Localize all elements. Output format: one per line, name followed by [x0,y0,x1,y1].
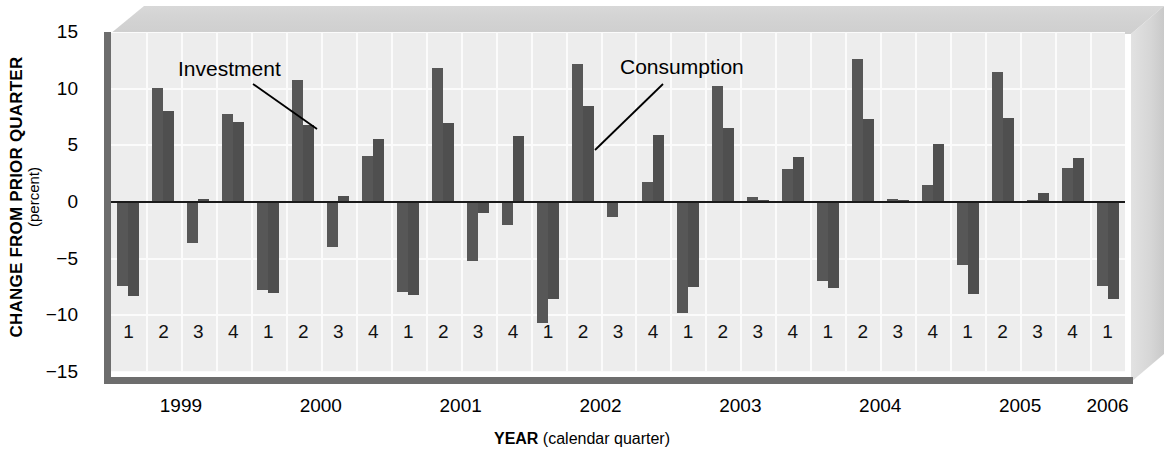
quarter-label-2004-Q3: 3 [880,322,915,341]
bar-investment-2006-Q1 [1097,202,1108,286]
bar-consumption-2000-Q4 [373,139,384,202]
y-tick-10: 10 [32,79,78,98]
bar-consumption-2003-Q4 [793,157,804,202]
x-axis-title-rest: (calendar quarter) [538,430,670,447]
quarter-label-1999-Q4: 4 [216,322,251,341]
bar-investment-2005-Q2 [992,72,1003,202]
quarter-label-2004-Q4: 4 [915,322,950,341]
bar-investment-2002-Q2 [572,64,583,202]
bar-investment-2004-Q2 [852,59,863,202]
year-label-2006: 2006 [1068,396,1148,415]
bar-consumption-2001-Q1 [408,202,419,295]
gridline-horizontal [111,371,1125,372]
quarter-label-2003-Q2: 2 [705,322,740,341]
year-label-2001: 2001 [421,396,501,415]
quarter-label-2002-Q4: 4 [635,322,670,341]
quarter-label-2005-Q4: 4 [1055,322,1090,341]
bar-investment-2000-Q3 [327,202,338,247]
bar-investment-2002-Q3 [607,202,618,217]
quarter-label-2003-Q1: 1 [670,322,705,341]
bar-consumption-2004-Q1 [828,202,839,288]
bar-investment-1999-Q3 [187,202,198,243]
bar-investment-2001-Q4 [502,202,513,225]
bar-investment-2000-Q1 [257,202,268,290]
quarter-label-1999-Q1: 1 [111,322,146,341]
bar-investment-2003-Q1 [677,202,688,313]
quarter-label-2005-Q3: 3 [1020,322,1055,341]
bar-consumption-1999-Q2 [163,111,174,202]
quarter-label-2001-Q3: 3 [461,322,496,341]
bar-consumption-2001-Q4 [513,136,524,202]
bar-investment-1999-Q4 [222,114,233,202]
bar-consumption-2004-Q2 [863,119,874,202]
quarter-label-2004-Q1: 1 [810,322,845,341]
bar-investment-2005-Q1 [957,202,968,265]
quarter-label-2003-Q3: 3 [740,322,775,341]
x-axis-title: YEAR (calendar quarter) [0,430,1164,448]
y-axis-title-main: CHANGE FROM PRIOR QUARTER [8,57,26,338]
bar-consumption-2003-Q2 [723,128,734,202]
zero-axis-line [111,201,1125,203]
y-tick-neg15: −15 [32,362,78,381]
bar-consumption-2000-Q1 [268,202,279,293]
bar-consumption-2005-Q4 [1073,158,1084,202]
bar-investment-2004-Q1 [817,202,828,281]
bar-investment-2003-Q2 [712,86,723,202]
bar-consumption-2002-Q2 [583,106,594,202]
quarter-label-2002-Q1: 1 [531,322,566,341]
quarter-label-1999-Q2: 2 [146,322,181,341]
y-tick-5: 5 [32,135,78,154]
bar-consumption-2002-Q4 [653,135,664,202]
year-label-2004: 2004 [840,396,920,415]
bar-consumption-2002-Q1 [548,202,559,299]
bar-investment-2002-Q1 [537,202,548,323]
x-axis-title-bold: YEAR [494,430,538,447]
quarter-label-2001-Q1: 1 [391,322,426,341]
quarter-label-2000-Q3: 3 [321,322,356,341]
quarter-label-2001-Q4: 4 [496,322,531,341]
bar-investment-1999-Q2 [152,88,163,202]
gridline-horizontal [111,314,1125,316]
year-label-1999: 1999 [141,396,221,415]
bar-consumption-2006-Q1 [1108,202,1119,299]
bar-consumption-2001-Q2 [443,123,454,202]
quarter-label-2000-Q1: 1 [251,322,286,341]
bar-investment-2000-Q2 [292,80,303,202]
bar-investment-2005-Q4 [1062,168,1073,202]
quarter-label-2002-Q3: 3 [601,322,636,341]
bar-investment-2004-Q4 [922,185,933,202]
quarter-label-2004-Q2: 2 [845,322,880,341]
bar-investment-2002-Q4 [642,182,653,202]
bar-investment-2003-Q4 [782,169,793,202]
bar-investment-2000-Q4 [362,156,373,202]
bar-consumption-2005-Q1 [968,202,979,294]
frame-bottom-edge [104,377,1133,384]
bar-consumption-2004-Q4 [933,144,944,202]
y-axis-tick-labels: 151050−5−10−15 [28,0,78,461]
bar-investment-2001-Q3 [467,202,478,261]
frame-right-face [1131,6,1164,394]
bar-investment-1999-Q1 [117,202,128,286]
quarter-label-2003-Q4: 4 [775,322,810,341]
y-tick-0: 0 [32,192,78,211]
year-label-2003: 2003 [700,396,780,415]
quarter-label-2000-Q2: 2 [286,322,321,341]
bar-consumption-1999-Q1 [128,202,139,296]
frame-top-face [78,6,1164,34]
bar-investment-2001-Q2 [432,68,443,202]
bar-consumption-2000-Q2 [303,125,314,202]
gridline-horizontal [111,32,1125,33]
bar-consumption-2001-Q3 [478,202,489,213]
quarter-label-2001-Q2: 2 [426,322,461,341]
annotation-investment: Investment [178,58,281,79]
year-label-2005: 2005 [980,396,1060,415]
gridline-horizontal [111,88,1125,90]
quarter-label-2000-Q4: 4 [356,322,391,341]
quarter-label-1999-Q3: 3 [181,322,216,341]
chart-figure: CHANGE FROM PRIOR QUARTER (percent) 1510… [0,0,1164,461]
y-tick-neg5: −5 [32,249,78,268]
quarter-label-2005-Q2: 2 [985,322,1020,341]
quarter-label-2006-Q1: 1 [1090,322,1125,341]
gridline-horizontal [111,144,1125,146]
quarter-label-2002-Q2: 2 [566,322,601,341]
